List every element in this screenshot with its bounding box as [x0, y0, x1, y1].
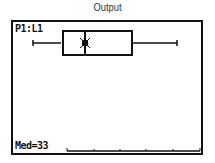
x-axis: [67, 148, 200, 151]
box-plot: [13, 22, 205, 157]
caption: Output: [16, 1, 199, 13]
iqr-box: [63, 31, 132, 55]
calculator-screen: P1:L1 Med=33: [11, 20, 203, 155]
